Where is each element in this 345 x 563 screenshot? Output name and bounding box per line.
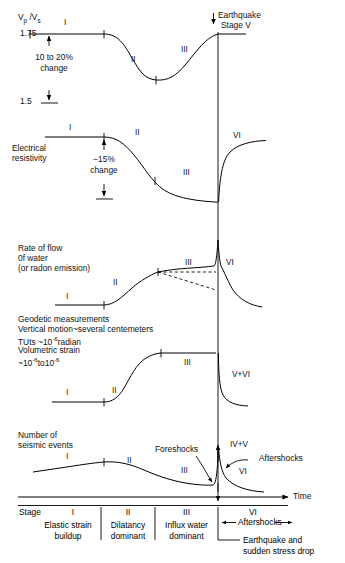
stage-col-2-numeral: II bbox=[101, 507, 155, 517]
flow-ylabel-line1: Rate of flow bbox=[18, 243, 62, 253]
resistivity-stage-I: I bbox=[69, 123, 71, 132]
geodetic-ylabel-line1: Geodetic measurements bbox=[18, 314, 109, 324]
seismicity-ylabel-line1: Number of bbox=[18, 430, 57, 440]
geodetic-strain-a: ~10 bbox=[18, 358, 32, 368]
stage-col-2-line1: Dilatancy bbox=[102, 520, 154, 530]
resistivity-stage-II: II bbox=[135, 128, 140, 137]
vp-vs-change-line2: change bbox=[24, 63, 84, 73]
stage-col-1-line1: Elastic strain bbox=[36, 520, 100, 530]
geodetic-ylabel-line5: ~10-6to10-6 bbox=[18, 355, 60, 368]
resistivity-change-line1: −15% bbox=[78, 154, 130, 164]
seismicity-stage-I: I bbox=[66, 452, 68, 461]
stage-col-3-line1: Influx water bbox=[156, 520, 217, 530]
seismicity-peak-label: IV+V bbox=[230, 440, 248, 449]
seismicity-stage-III: III bbox=[181, 466, 188, 475]
figure-root: Vp /Vs 1.75 1.5 10 to 20% change I II II… bbox=[0, 0, 345, 563]
resistivity-curve bbox=[45, 137, 218, 202]
geodetic-stage-V-VI: V+VI bbox=[232, 370, 250, 379]
flow-stage-II: II bbox=[113, 278, 118, 287]
stage-col-4-line1: Aftershocks bbox=[238, 517, 282, 527]
geodetic-drop-curve bbox=[218, 353, 248, 406]
earthquake-label-line2: Stage V bbox=[221, 20, 251, 30]
foreshocks-leader bbox=[196, 456, 212, 482]
resistivity-ylabel-line2: resistivity bbox=[12, 153, 46, 163]
stage-col-2-line2: dominant bbox=[102, 531, 154, 541]
geodetic-stage-III: III bbox=[184, 358, 191, 367]
stage-table-row-header: Stage bbox=[19, 507, 41, 517]
seismicity-stage-VI: VI bbox=[239, 467, 247, 476]
flow-stage-III: III bbox=[185, 258, 192, 267]
footnote-line1: Earthquake and bbox=[243, 535, 302, 545]
geodetic-strain-exp2: -6 bbox=[54, 356, 60, 363]
resistivity-ylabel-line1: Electrical bbox=[12, 143, 46, 153]
vp-vs-ylabel: Vp /Vs bbox=[18, 12, 41, 26]
earthquake-label-line1: Earthquake bbox=[218, 10, 261, 20]
stage-col-1-numeral: I bbox=[46, 507, 100, 517]
vp-vs-tick-label-top: 1.75 bbox=[20, 28, 36, 38]
seismicity-foreshock-rise bbox=[213, 448, 218, 485]
stage-col-4-numeral: VI bbox=[218, 507, 288, 517]
time-axis-label: Time bbox=[293, 491, 311, 501]
geodetic-stage-I: I bbox=[66, 388, 68, 397]
flow-dashed-lower bbox=[158, 272, 216, 290]
geodetic-stage-II: II bbox=[112, 386, 117, 395]
resistivity-stage-VI: VI bbox=[233, 131, 241, 140]
flow-peak-curve bbox=[158, 240, 262, 307]
geodetic-curve bbox=[52, 353, 216, 402]
vp-vs-stage-I: I bbox=[64, 18, 66, 27]
vp-vs-change-line1: 10 to 20% bbox=[24, 52, 84, 62]
footnote-line2: sudden stress drop bbox=[243, 546, 314, 556]
geodetic-strain-b: to10 bbox=[38, 358, 54, 368]
stage-col-1-line2: buildup bbox=[36, 531, 100, 541]
vp-vs-stage-III: III bbox=[181, 45, 188, 54]
stage-col-3-numeral: III bbox=[155, 507, 218, 517]
resistivity-stage-III: III bbox=[183, 168, 190, 177]
vp-vs-tick-label-bottom: 1.5 bbox=[20, 96, 32, 106]
geodetic-ylabel-line2: Vertical motion~several centemeters bbox=[18, 324, 153, 334]
flow-stage-VI: VI bbox=[226, 258, 234, 267]
flow-ylabel-line3: (or radon emission) bbox=[18, 263, 90, 273]
flow-stage-I: I bbox=[66, 292, 68, 301]
stage-col-3-line2: dominant bbox=[156, 531, 217, 541]
resistivity-recovery-curve bbox=[219, 141, 266, 203]
resistivity-change-line2: change bbox=[78, 165, 130, 175]
flow-ylabel-line2: 0f water bbox=[18, 253, 48, 263]
foreshocks-label: Foreshocks bbox=[155, 444, 198, 454]
vp-vs-stage-II: II bbox=[131, 55, 136, 64]
figure-canvas bbox=[0, 0, 345, 563]
seismicity-stage-II: II bbox=[127, 456, 132, 465]
flow-curve bbox=[55, 272, 158, 305]
geodetic-ylabel-line4: Volumetric strain bbox=[18, 345, 80, 355]
aftershocks-label: Aftershocks bbox=[259, 453, 303, 463]
seismicity-ylabel-line2: seismic events bbox=[18, 440, 73, 450]
